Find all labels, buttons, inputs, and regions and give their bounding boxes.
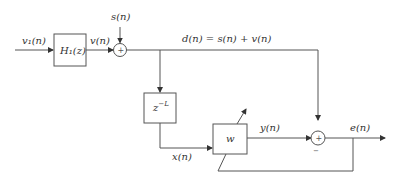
d-label: d(n) = s(n) + v(n) [182,33,271,44]
v-label: v(n) [90,35,110,46]
sum2-minus: − [313,147,319,155]
delay-block [144,93,176,123]
y-label: y(n) [259,122,280,133]
sum2-sign: + [316,134,323,143]
x-label: x(n) [172,151,192,162]
e-label: e(n) [350,122,370,133]
filter-label: H₁(z) [59,45,86,56]
x-line [160,123,212,148]
sum1-sign: + [118,46,125,55]
input-label: v₁(n) [22,35,46,46]
adapt-arrow [237,109,246,124]
adaptive-label: w [226,133,235,144]
s-label: s(n) [111,11,130,22]
block-diagram: v₁(n) H₁(z) v(n) + s(n) d(n) = s(n) + v(… [0,0,397,182]
